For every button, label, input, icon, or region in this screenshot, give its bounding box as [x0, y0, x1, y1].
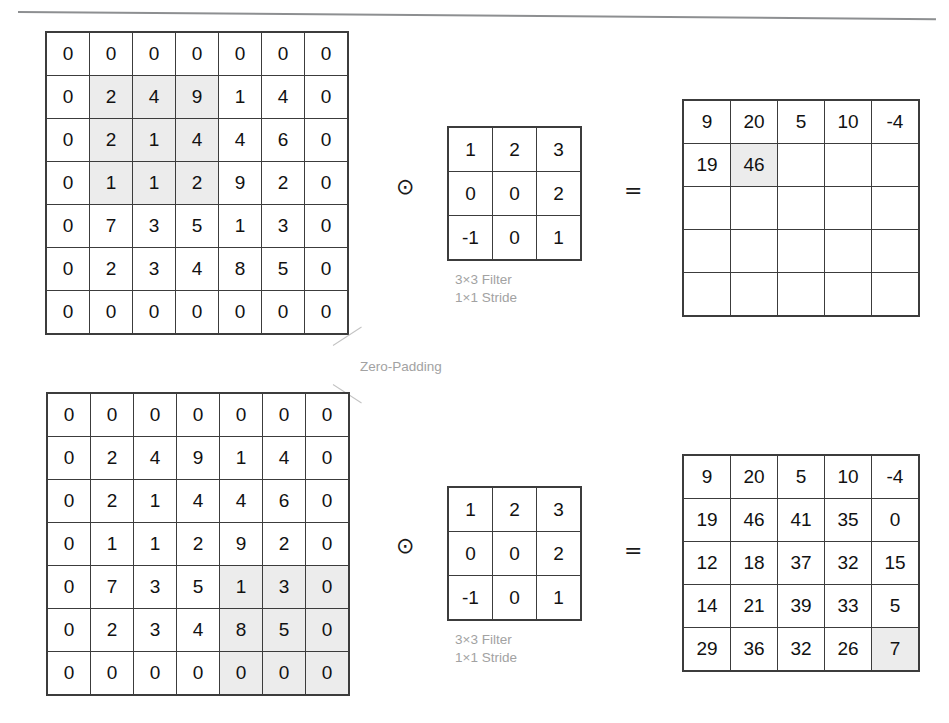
matrix-cell: 0: [262, 33, 305, 76]
matrix-cell: [778, 273, 825, 316]
matrix-cell: 0: [262, 291, 305, 334]
matrix-cell: [825, 273, 872, 316]
matrix-cell: 5: [778, 456, 825, 499]
matrix-cell: 0: [305, 248, 348, 291]
matrix-cell: 21: [731, 585, 778, 628]
filter-stride-label: 1×1 Stride: [455, 649, 517, 667]
matrix-cell: 2: [537, 172, 581, 216]
matrix-cell: 15: [872, 542, 919, 585]
matrix-cell: 0: [47, 162, 90, 205]
matrix-cell: 1: [219, 205, 262, 248]
matrix-cell: 39: [778, 585, 825, 628]
input-matrix-bottom: 0000000024914002144600112920073513002348…: [47, 393, 349, 695]
matrix-cell: 33: [825, 585, 872, 628]
matrix-cell: 2: [90, 119, 133, 162]
matrix-cell: 9: [684, 101, 731, 144]
matrix-row: 0249140: [48, 437, 349, 480]
matrix-cell: 0: [47, 33, 90, 76]
matrix-cell: 9: [684, 456, 731, 499]
matrix-row: 0214460: [48, 480, 349, 523]
matrix-row: 920510-4: [684, 101, 919, 144]
matrix-cell: 9: [176, 76, 219, 119]
matrix-cell: 2: [537, 532, 581, 576]
matrix-cell: 4: [133, 76, 176, 119]
matrix-cell: 1: [220, 437, 263, 480]
matrix-cell: 4: [262, 76, 305, 119]
output-matrix-bottom: 920510-419464135012183732151421393352936…: [683, 455, 919, 671]
matrix-cell: 19: [684, 499, 731, 542]
matrix-cell: 19: [684, 144, 731, 187]
matrix-cell: 5: [872, 585, 919, 628]
matrix-row: 0735130: [47, 205, 348, 248]
matrix-cell: 1: [449, 128, 493, 172]
matrix-cell: 2: [263, 523, 306, 566]
matrix-cell: -4: [872, 456, 919, 499]
matrix-cell: 3: [134, 566, 177, 609]
matrix-cell: 2: [176, 162, 219, 205]
matrix-cell: 29: [684, 628, 731, 671]
matrix-cell: 2: [493, 128, 537, 172]
filter-size-label: 3×3 Filter: [455, 271, 517, 289]
matrix-cell: 0: [48, 566, 91, 609]
matrix-row: 0112920: [48, 523, 349, 566]
matrix-cell: 37: [778, 542, 825, 585]
matrix-row: 0000000: [47, 33, 348, 76]
matrix-cell: 3: [537, 488, 581, 532]
matrix-cell: 2: [91, 437, 134, 480]
matrix-cell: 9: [177, 437, 220, 480]
matrix-cell: [684, 273, 731, 316]
matrix-row: 123: [449, 128, 581, 172]
matrix-cell: [872, 144, 919, 187]
matrix-cell: 0: [872, 499, 919, 542]
matrix-cell: [731, 230, 778, 273]
matrix-cell: 9: [219, 162, 262, 205]
matrix-row: 0234850: [48, 609, 349, 652]
matrix-cell: [825, 144, 872, 187]
matrix-cell: 0: [449, 532, 493, 576]
matrix-cell: 0: [306, 652, 349, 695]
matrix-cell: 0: [263, 394, 306, 437]
matrix-cell: 36: [731, 628, 778, 671]
matrix-cell: 0: [219, 33, 262, 76]
matrix-cell: 20: [731, 101, 778, 144]
matrix-cell: 2: [262, 162, 305, 205]
matrix-cell: 5: [263, 609, 306, 652]
matrix-cell: 0: [306, 437, 349, 480]
matrix-cell: 46: [731, 499, 778, 542]
matrix-cell: 0: [177, 394, 220, 437]
matrix-cell: 0: [493, 532, 537, 576]
matrix-row: 194641350: [684, 499, 919, 542]
filter-size-label: 3×3 Filter: [455, 631, 517, 649]
matrix-cell: 0: [47, 119, 90, 162]
matrix-cell: 0: [176, 291, 219, 334]
matrix-cell: 0: [493, 216, 537, 260]
matrix-cell: 14: [684, 585, 731, 628]
matrix-cell: [872, 230, 919, 273]
matrix-row: 0249140: [47, 76, 348, 119]
matrix-row: 0214460: [47, 119, 348, 162]
matrix-cell: 6: [263, 480, 306, 523]
matrix-cell: 1: [91, 523, 134, 566]
matrix-cell: 1: [220, 566, 263, 609]
matrix-cell: 0: [220, 652, 263, 695]
matrix-row: 0112920: [47, 162, 348, 205]
matrix-cell: 0: [48, 394, 91, 437]
matrix-cell: 0: [48, 523, 91, 566]
matrix-cell: 4: [134, 437, 177, 480]
matrix-cell: 0: [305, 119, 348, 162]
matrix-cell: 0: [306, 609, 349, 652]
matrix-row: 0000000: [48, 394, 349, 437]
matrix-cell: 0: [91, 652, 134, 695]
matrix-cell: 32: [778, 628, 825, 671]
matrix-cell: 0: [47, 205, 90, 248]
matrix-cell: 4: [176, 248, 219, 291]
matrix-cell: 0: [220, 394, 263, 437]
matrix-cell: 0: [493, 172, 537, 216]
matrix-cell: 2: [90, 76, 133, 119]
matrix-cell: 2: [493, 488, 537, 532]
equals-operator-icon: =: [624, 540, 642, 562]
filter-matrix-bottom: 123002-101: [448, 487, 581, 620]
matrix-cell: -1: [449, 576, 493, 620]
matrix-row: [684, 187, 919, 230]
matrix-cell: 5: [177, 566, 220, 609]
